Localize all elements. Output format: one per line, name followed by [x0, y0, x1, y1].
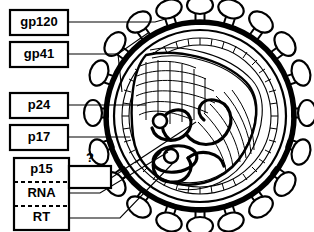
- diagram-canvas: gp120 gp41 p24 p17 p15 RNA RT: [0, 0, 314, 232]
- label-text-gp120: gp120: [20, 14, 58, 29]
- label-box-gp120[interactable]: gp120: [10, 10, 68, 35]
- label-text-p17: p17: [28, 129, 50, 144]
- label-text-p15: p15: [30, 161, 52, 176]
- label-box-gp41[interactable]: gp41: [10, 42, 68, 67]
- rt-enzyme-marker: [164, 149, 178, 163]
- label-text-p24: p24: [28, 97, 51, 112]
- label-text-rt: RT: [33, 209, 50, 224]
- virion-group: [84, 0, 314, 232]
- question-mark-label: ?: [86, 150, 94, 165]
- label-box-stack-p15-rna-rt[interactable]: p15 RNA RT: [14, 158, 69, 230]
- label-box-p17[interactable]: p17: [10, 125, 68, 150]
- rt-enzyme-marker: [153, 114, 167, 128]
- hiv-structure-diagram: gp120 gp41 p24 p17 p15 RNA RT: [0, 0, 314, 232]
- label-text-rna: RNA: [27, 185, 56, 200]
- label-text-gp41: gp41: [24, 46, 54, 61]
- label-box-p24[interactable]: p24: [10, 93, 68, 118]
